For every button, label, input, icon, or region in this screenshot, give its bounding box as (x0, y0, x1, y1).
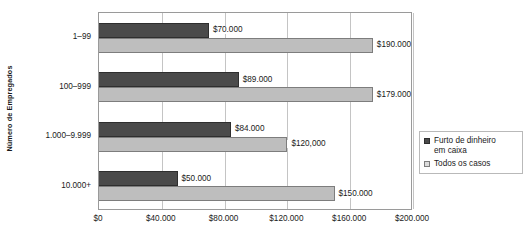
bar (99, 186, 335, 201)
legend-swatch-icon (424, 161, 430, 167)
legend-label-line2: em caixa (434, 146, 467, 155)
bar-row: $179.000 (99, 87, 411, 102)
y-axis-title-text: Número de Empregados (5, 65, 14, 151)
y-axis-title: Número de Empregados (0, 0, 18, 216)
x-axis-tick-labels: $0$40.000$80.000$120.000$160.000$200.000 (98, 214, 412, 228)
legend-label: Furto de dinheiroem caixa (434, 136, 496, 156)
legend-entry[interactable]: Furto de dinheiroem caixa (424, 136, 518, 156)
bar-value-label: $50.000 (178, 175, 212, 183)
gridline (413, 13, 414, 209)
y-axis-tick-labels: 1–99100–9991.000–9.99910.000+ (18, 12, 96, 210)
legend-label: Todos os casos (434, 159, 490, 169)
bar-group: $50.000$150.000 (99, 162, 411, 212)
bar-value-label: $120,000 (287, 140, 325, 148)
plot-area: $70.000$190.000$89.000$179.000$84.000$12… (98, 12, 412, 210)
bar-row: $84.000 (99, 122, 411, 137)
bar (99, 171, 178, 186)
bar-value-label: $179.000 (373, 91, 411, 99)
legend-label-line1: Todos os casos (434, 159, 490, 168)
bar (99, 137, 287, 152)
bar-value-label: $89.000 (239, 76, 273, 84)
bar-value-label: $84.000 (231, 125, 265, 133)
bar (99, 38, 373, 53)
bar (99, 72, 239, 87)
bar (99, 23, 209, 38)
bar-groups: $70.000$190.000$89.000$179.000$84.000$12… (99, 13, 411, 209)
y-axis-tick-label: 100–999 (18, 62, 96, 112)
bar-row: $50.000 (99, 171, 411, 186)
x-axis-tick-label: $0 (93, 214, 102, 223)
bar-group: $70.000$190.000 (99, 13, 411, 63)
bar-group: $89.000$179.000 (99, 63, 411, 113)
x-axis-tick-label: $40.000 (146, 214, 176, 223)
bar (99, 87, 373, 102)
bar-value-label: $70.000 (209, 26, 243, 34)
bar-chart: Número de Empregados 1–99100–9991.000–9.… (0, 0, 529, 244)
bar-row: $89.000 (99, 72, 411, 87)
legend-entry[interactable]: Todos os casos (424, 159, 518, 169)
bar-value-label: $190.000 (373, 41, 411, 49)
legend-swatch-icon (424, 138, 430, 144)
legend-label-line1: Furto de dinheiro (434, 136, 496, 145)
x-axis-tick-label: $200.000 (395, 214, 429, 223)
bar-value-label: $150.000 (335, 190, 373, 198)
y-axis-tick-label: 1.000–9.999 (18, 111, 96, 161)
bar-group: $84.000$120,000 (99, 112, 411, 162)
bar-row: $120,000 (99, 137, 411, 152)
bar-row: $150.000 (99, 186, 411, 201)
y-axis-tick-label: 1–99 (18, 12, 96, 62)
x-axis-tick-label: $160.000 (332, 214, 366, 223)
bar-row: $70.000 (99, 23, 411, 38)
bar (99, 122, 231, 137)
bar-row: $190.000 (99, 38, 411, 53)
x-axis-tick-label: $120.000 (269, 214, 303, 223)
chart-legend: Furto de dinheiroem caixaTodos os casos (419, 131, 523, 174)
x-axis-tick-label: $80.000 (209, 214, 239, 223)
y-axis-tick-label: 10.000+ (18, 161, 96, 211)
